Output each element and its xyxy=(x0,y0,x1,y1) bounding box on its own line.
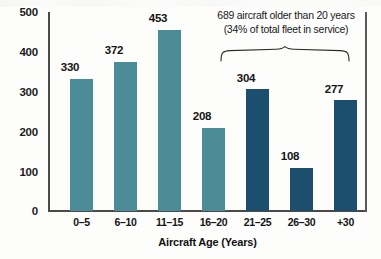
y-tick-label-0: 0 xyxy=(4,206,38,218)
x-tick-label-plus30: +30 xyxy=(322,216,370,228)
y-tick-label-500: 500 xyxy=(4,7,38,19)
x-tick-label-6-10: 6–10 xyxy=(102,216,150,228)
bar-value-21-25: 304 xyxy=(223,73,269,85)
bar-chart-figure: Number of Aircraft 500 400 300 200 100 0… xyxy=(0,0,381,259)
x-tick-label-11-15: 11–15 xyxy=(146,216,194,228)
bar-0-5 xyxy=(70,79,93,211)
y-tick-label-100: 100 xyxy=(4,167,38,179)
annotation-text: 689 aircraft older than 20 years (34% of… xyxy=(196,8,376,36)
bar-26-30 xyxy=(290,168,313,211)
annotation-line-2: (34% of total fleet in service) xyxy=(196,22,376,36)
bar-value-0-5: 330 xyxy=(47,62,93,74)
y-tick-label-300: 300 xyxy=(4,87,38,99)
bar-21-25 xyxy=(246,89,269,211)
bar-6-10 xyxy=(114,62,137,211)
x-tick-label-26-30: 26–30 xyxy=(278,216,326,228)
bar-16-20 xyxy=(202,128,225,211)
bar-plus30 xyxy=(334,100,357,211)
annotation-line-1: 689 aircraft older than 20 years xyxy=(196,8,376,22)
bar-value-11-15: 453 xyxy=(135,13,181,25)
bar-value-16-20: 208 xyxy=(179,111,225,123)
bar-value-6-10: 372 xyxy=(91,45,137,57)
bar-value-26-30: 108 xyxy=(267,151,313,163)
x-axis-title: Aircraft Age (Years) xyxy=(48,236,367,248)
bar-11-15 xyxy=(158,30,181,211)
y-tick-label-200: 200 xyxy=(4,127,38,139)
x-tick-label-0-5: 0–5 xyxy=(58,216,106,228)
x-tick-label-16-20: 16–20 xyxy=(190,216,238,228)
x-tick-label-21-25: 21–25 xyxy=(234,216,282,228)
y-tick-label-400: 400 xyxy=(4,47,38,59)
scan-artifact-band xyxy=(0,0,381,7)
bar-value-plus30: 277 xyxy=(311,84,357,96)
curly-brace-icon xyxy=(220,46,350,62)
